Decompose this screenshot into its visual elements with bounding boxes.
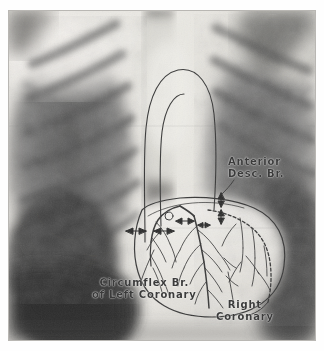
label-anterior-descending-line1: Anterior — [228, 156, 281, 167]
label-right-coronary: Right Coronary — [216, 299, 274, 323]
screenshot-root: Anterior Desc. Br. Circumflex Br. of Lef… — [0, 0, 324, 351]
label-anterior-descending: Anterior Desc. Br. — [228, 156, 284, 180]
label-circumflex-line2: of Left Coronary — [92, 289, 197, 301]
label-circumflex: Circumflex Br. of Left Coronary — [92, 277, 197, 301]
label-right-coronary-line1: Right — [228, 299, 262, 310]
label-right-coronary-line2: Coronary — [216, 311, 274, 323]
label-anterior-descending-line2: Desc. Br. — [228, 168, 284, 180]
label-circumflex-line1: Circumflex Br. — [99, 277, 189, 288]
